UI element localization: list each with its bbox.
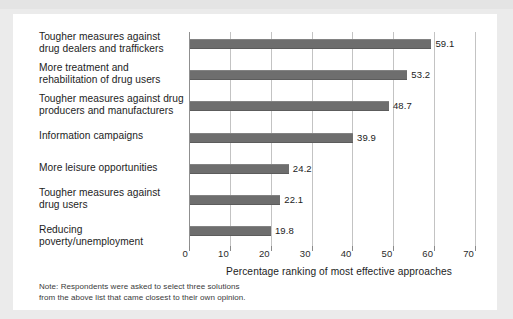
category-label-line: Information campaigns: [39, 130, 189, 142]
gridline-70: [475, 32, 476, 246]
x-tick-label-30: 30: [277, 248, 311, 259]
figure-panel: 01020304050607059.153.248.739.924.222.11…: [13, 14, 497, 310]
bar: [190, 101, 389, 111]
bar: [190, 133, 353, 143]
bar-value-label: 59.1: [435, 38, 454, 49]
category-label-line: Reducing poverty/unemployment: [39, 224, 189, 249]
x-tick-label-20: 20: [236, 248, 270, 259]
category-label: Information campaigns: [39, 130, 189, 142]
category-label-line: producers and manufacturers: [39, 105, 189, 117]
bar-value-label: 19.8: [275, 225, 294, 236]
x-tick-label-50: 50: [358, 248, 392, 259]
figure-note: Note: Respondents were asked to select t…: [39, 282, 419, 303]
category-label: Tougher measures againstdrug dealers and…: [39, 31, 189, 56]
x-tick-label-60: 60: [399, 248, 433, 259]
bar-value-label: 24.2: [293, 163, 312, 174]
x-axis-title: Percentage ranking of most effective app…: [189, 266, 489, 277]
bar-value-label: 22.1: [284, 194, 303, 205]
category-label-line: drug dealers and traffickers: [39, 43, 189, 55]
bar: [190, 39, 431, 49]
category-label-line: Tougher measures against: [39, 31, 189, 43]
x-tick-label-70: 70: [440, 248, 474, 259]
category-label-line: rehabilitation of drug users: [39, 74, 189, 86]
x-tick-20: [271, 246, 272, 251]
figure-note-line-1: Note: Respondents were asked to select t…: [39, 282, 419, 293]
category-label: Reducing poverty/unemployment: [39, 224, 189, 249]
bar: [190, 70, 407, 80]
category-label-line: More leisure opportunities: [39, 162, 189, 174]
gridline-50: [393, 32, 394, 246]
bar-value-label: 48.7: [393, 100, 412, 111]
category-label-line: drug users: [39, 199, 189, 211]
category-label: More leisure opportunities: [39, 162, 189, 174]
category-label: Tougher measures againstdrug users: [39, 187, 189, 212]
x-tick-70: [475, 246, 476, 251]
bar: [190, 226, 271, 236]
x-tick-30: [312, 246, 313, 251]
figure-note-line-2: from the above list that came closest to…: [39, 293, 419, 304]
x-tick-60: [434, 246, 435, 251]
category-label: Tougher measures against drugproducers a…: [39, 93, 189, 118]
x-tick-0: [189, 246, 190, 251]
bar: [190, 195, 280, 205]
x-tick-10: [230, 246, 231, 251]
x-tick-label-10: 10: [195, 248, 229, 259]
category-label-line: Tougher measures against drug: [39, 93, 189, 105]
x-tick-50: [393, 246, 394, 251]
bar-value-label: 39.9: [357, 132, 376, 143]
gridline-60: [434, 32, 435, 246]
plot-area: 01020304050607059.153.248.739.924.222.11…: [189, 32, 475, 246]
category-label: More treatment andrehabilitation of drug…: [39, 62, 189, 87]
category-label-line: More treatment and: [39, 62, 189, 74]
bar-value-label: 53.2: [411, 69, 430, 80]
x-tick-40: [352, 246, 353, 251]
screenshot-root: 01020304050607059.153.248.739.924.222.11…: [0, 0, 513, 319]
x-tick-label-0: 0: [154, 248, 188, 259]
bar-chart: 01020304050607059.153.248.739.924.222.11…: [13, 14, 497, 254]
x-tick-label-40: 40: [317, 248, 351, 259]
bar: [190, 164, 289, 174]
category-label-line: Tougher measures against: [39, 187, 189, 199]
